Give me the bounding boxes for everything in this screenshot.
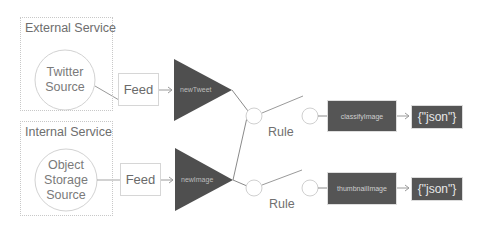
newtweet-to-rule1 [232,90,248,111]
rule1-input-circle [246,108,262,124]
group-title: Internal Service [25,125,112,139]
newimage-to-rule1 [233,113,248,180]
source-label-line: Storage [36,173,96,188]
external-service-group: External Service [20,17,113,111]
rule2-input-circle [246,180,262,196]
feed-box-2[interactable]: Feed [120,163,161,196]
action-classifyimage-box[interactable]: classifyImage [327,100,397,132]
newimage-to-rule2 [233,180,247,186]
json-output-1: {"json"} [411,105,463,129]
source-label-line: Source [35,80,95,95]
rule2-stub-line [262,170,302,185]
rule-label-2: Rule [269,197,295,211]
source-label-line: Object [36,158,96,173]
json-output-2: {"json"} [411,177,463,201]
trigger-newimage-label: newImage [181,176,213,183]
object-storage-source-label: Object Storage Source [36,158,96,203]
source-label-line: Twitter [35,65,95,80]
twitter-source-label: Twitter Source [35,65,95,95]
source-label-line: Source [36,188,96,203]
rule1-output-circle [302,108,318,124]
rule2-output-circle [302,180,318,196]
action-thumbnailimage-box[interactable]: thumbnailImage [327,172,397,205]
group-title: External Service [25,21,116,35]
feed-box-1[interactable]: Feed [118,73,159,106]
rule-label-1: Rule [268,125,294,139]
trigger-newtweet-label: newTweet [180,86,212,93]
rule1-stub-line [262,96,303,113]
